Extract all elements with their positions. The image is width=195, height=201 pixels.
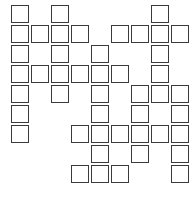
grid-cell[interactable] (151, 25, 169, 43)
grid-cell[interactable] (131, 85, 149, 103)
grid-cell[interactable] (131, 25, 149, 43)
grid-cell[interactable] (131, 145, 149, 163)
grid-cell[interactable] (151, 45, 169, 63)
grid-cell[interactable] (51, 25, 69, 43)
grid-cell[interactable] (171, 105, 189, 123)
grid-cell[interactable] (131, 125, 149, 143)
grid-cell[interactable] (171, 165, 189, 183)
grid-cell[interactable] (171, 25, 189, 43)
grid-cell[interactable] (91, 165, 109, 183)
grid-cell[interactable] (11, 45, 29, 63)
grid-cell[interactable] (71, 25, 89, 43)
grid-cell[interactable] (111, 165, 129, 183)
grid-cell[interactable] (11, 105, 29, 123)
grid-canvas (0, 0, 195, 201)
grid-cell[interactable] (91, 65, 109, 83)
grid-cell[interactable] (91, 45, 109, 63)
grid-cell[interactable] (111, 25, 129, 43)
grid-cell[interactable] (31, 25, 49, 43)
grid-cell[interactable] (11, 5, 29, 23)
grid-cell[interactable] (151, 85, 169, 103)
grid-cell[interactable] (11, 125, 29, 143)
grid-cell[interactable] (151, 5, 169, 23)
grid-cell[interactable] (151, 125, 169, 143)
grid-cell[interactable] (11, 25, 29, 43)
grid-cell[interactable] (91, 125, 109, 143)
grid-cell[interactable] (71, 65, 89, 83)
grid-cell[interactable] (91, 85, 109, 103)
grid-cell[interactable] (91, 105, 109, 123)
grid-cell[interactable] (51, 45, 69, 63)
grid-cell[interactable] (151, 65, 169, 83)
grid-cell[interactable] (51, 85, 69, 103)
grid-cell[interactable] (71, 165, 89, 183)
grid-cell[interactable] (51, 65, 69, 83)
grid-cell[interactable] (31, 65, 49, 83)
grid-cell[interactable] (71, 125, 89, 143)
grid-cell[interactable] (171, 145, 189, 163)
grid-cell[interactable] (11, 85, 29, 103)
grid-cell[interactable] (171, 85, 189, 103)
grid-cell[interactable] (131, 105, 149, 123)
grid-cell[interactable] (51, 5, 69, 23)
grid-cell[interactable] (111, 65, 129, 83)
grid-cell[interactable] (171, 125, 189, 143)
grid-cell[interactable] (111, 125, 129, 143)
grid-cell[interactable] (91, 145, 109, 163)
grid-cell[interactable] (11, 65, 29, 83)
